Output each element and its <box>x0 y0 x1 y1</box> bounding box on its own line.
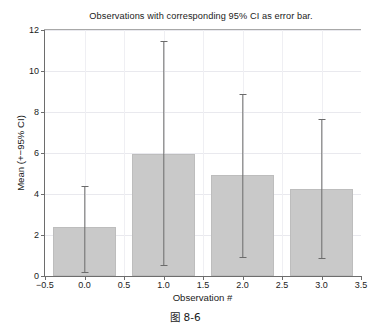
error-bar-cap-upper <box>81 186 88 187</box>
chart-title: Observations with corresponding 95% CI a… <box>40 11 362 22</box>
error-bar-line <box>321 119 322 258</box>
y-axis-tick-label: 4 <box>34 190 39 199</box>
y-axis-tick <box>41 153 45 154</box>
error-bar-cap-lower <box>160 265 167 266</box>
y-axis-label-container: Mean (+−95% CI) <box>16 0 30 306</box>
plot-area: 024681012−0.50.00.51.01.52.02.53.03.5 <box>44 30 361 277</box>
y-axis-tick <box>41 71 45 72</box>
x-axis-tick-label: 1.5 <box>197 281 210 290</box>
figure-caption: 图 8-6 <box>0 311 371 324</box>
y-axis-tick <box>41 194 45 195</box>
y-axis-tick-label: 12 <box>29 26 39 35</box>
error-bar-cap-lower <box>81 272 88 273</box>
error-bar-line <box>163 41 164 265</box>
error-bar-cap-upper <box>160 41 167 42</box>
y-axis-tick <box>41 235 45 236</box>
x-axis-tick-label: 1.0 <box>157 281 170 290</box>
error-bar-cap-upper <box>318 119 325 120</box>
error-bar-line <box>84 186 85 272</box>
x-axis-tick-label: −0.5 <box>36 281 54 290</box>
error-bar-cap-lower <box>318 258 325 259</box>
error-bar-cap-lower <box>239 257 246 258</box>
error-bar-cap-upper <box>239 94 246 95</box>
gridline-vertical <box>282 30 283 276</box>
x-axis-tick-label: 3.0 <box>315 281 328 290</box>
y-axis-tick-label: 8 <box>34 108 39 117</box>
x-axis-tick-label: 3.5 <box>355 281 368 290</box>
y-axis-tick-label: 10 <box>29 67 39 76</box>
gridline-vertical <box>124 30 125 276</box>
x-axis-tick-label: 0.5 <box>118 281 131 290</box>
gridline-vertical <box>203 30 204 276</box>
y-axis-label: Mean (+−95% CI) <box>16 115 26 191</box>
y-axis-tick <box>41 112 45 113</box>
y-axis-tick-label: 6 <box>34 149 39 158</box>
y-axis-tick <box>41 30 45 31</box>
x-axis-tick-label: 2.5 <box>276 281 289 290</box>
error-bar-line <box>242 94 243 257</box>
x-axis-label: Observation # <box>44 292 361 303</box>
x-axis-tick-label: 0.0 <box>78 281 91 290</box>
x-axis-tick-label: 2.0 <box>236 281 249 290</box>
y-axis-tick-label: 2 <box>34 231 39 240</box>
figure-container: Observations with corresponding 95% CI a… <box>0 0 371 333</box>
